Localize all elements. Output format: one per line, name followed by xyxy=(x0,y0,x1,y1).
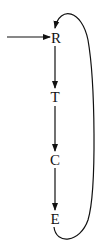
node-r: R xyxy=(51,31,61,46)
node-e: E xyxy=(50,212,59,227)
loop-edge-e-r xyxy=(54,14,94,239)
node-c: C xyxy=(50,153,60,168)
node-t: T xyxy=(50,90,59,105)
